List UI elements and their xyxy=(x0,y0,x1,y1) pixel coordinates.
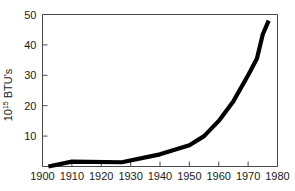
plot-frame xyxy=(43,15,278,167)
series-energy-consumption-line xyxy=(48,21,268,167)
y-axis-title-text: 1015 BTU's xyxy=(2,68,14,121)
y-tick-label: 30 xyxy=(24,69,36,81)
y-tick-label: 10 xyxy=(24,130,36,142)
y-tick-label: 40 xyxy=(24,39,36,51)
x-tick-label: 1980 xyxy=(265,170,289,182)
chart-canvas: 190019101920193019401950196019701980 102… xyxy=(0,0,295,191)
y-axis-title: 1015 BTU's xyxy=(2,68,14,121)
x-tick-label: 1910 xyxy=(60,170,84,182)
x-tick-label: 1950 xyxy=(177,170,201,182)
energy-consumption-line-chart: 190019101920193019401950196019701980 102… xyxy=(0,0,295,191)
y-axis-tick-labels: 1020304050 xyxy=(24,9,36,143)
y-axis-tickmarks xyxy=(43,45,48,136)
x-axis-tick-labels: 190019101920193019401950196019701980 xyxy=(30,170,289,182)
x-tick-label: 1940 xyxy=(148,170,172,182)
data-series-group xyxy=(48,21,268,167)
x-tick-label: 1930 xyxy=(118,170,142,182)
axis-frame-path xyxy=(43,15,278,167)
y-tick-label: 50 xyxy=(24,9,36,21)
x-tick-label: 1970 xyxy=(236,170,260,182)
x-tick-label: 1920 xyxy=(89,170,113,182)
x-tick-label: 1960 xyxy=(207,170,231,182)
x-tick-label: 1900 xyxy=(30,170,54,182)
y-tick-label: 20 xyxy=(24,100,36,112)
